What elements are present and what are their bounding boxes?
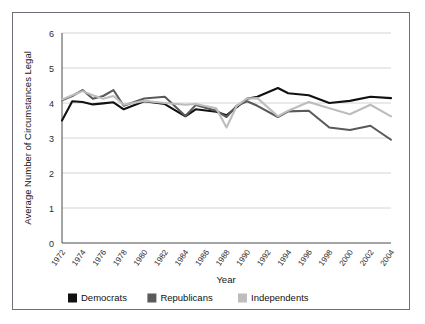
legend-label: Independents bbox=[251, 292, 309, 303]
chart-figure: 0123456 19721974197619781980198219841986… bbox=[0, 0, 425, 324]
x-axis-title: Year bbox=[216, 274, 235, 285]
y-tick-label: 5 bbox=[49, 64, 54, 74]
x-tick-label: 1996 bbox=[296, 248, 314, 268]
x-tick-label: 2004 bbox=[379, 248, 397, 268]
x-tick-label: 1978 bbox=[111, 248, 129, 268]
y-tick-label: 6 bbox=[49, 29, 54, 39]
x-tick-label: 1994 bbox=[276, 248, 294, 268]
y-tick-label: 3 bbox=[49, 134, 54, 144]
x-tick-label: 1986 bbox=[193, 248, 211, 268]
legend-label: Republicans bbox=[160, 292, 213, 303]
y-axis-title: Average Number of Circumstances Legal bbox=[22, 51, 33, 225]
y-axis-tick-labels: 0123456 bbox=[49, 29, 54, 249]
gridlines bbox=[62, 33, 391, 208]
x-axis-tick-labels: 1972197419761978198019821984198619881990… bbox=[50, 248, 397, 268]
line-chart: 0123456 19721974197619781980198219841986… bbox=[0, 0, 425, 324]
y-tick-label: 0 bbox=[49, 239, 54, 249]
x-tick-label: 1982 bbox=[152, 248, 170, 268]
legend-swatch bbox=[147, 294, 156, 303]
y-tick-label: 1 bbox=[49, 204, 54, 214]
chart-legend: DemocratsRepublicansIndependents bbox=[68, 292, 309, 303]
legend-label: Democrats bbox=[81, 292, 127, 303]
data-series bbox=[62, 88, 391, 140]
x-tick-label: 1990 bbox=[235, 248, 253, 268]
x-tick-label: 1974 bbox=[70, 248, 88, 268]
x-tick-label: 1980 bbox=[132, 248, 150, 268]
y-tick-label: 4 bbox=[49, 99, 54, 109]
y-tick-label: 2 bbox=[49, 169, 54, 179]
series-line-independents bbox=[62, 91, 391, 127]
x-tick-label: 1998 bbox=[317, 248, 335, 268]
x-tick-label: 1984 bbox=[173, 248, 191, 268]
x-tick-label: 1988 bbox=[214, 248, 232, 268]
x-tick-label: 2002 bbox=[358, 248, 376, 268]
x-tick-label: 1976 bbox=[91, 248, 109, 268]
legend-swatch bbox=[238, 294, 247, 303]
x-tick-label: 1972 bbox=[50, 248, 68, 268]
x-tick-label: 1992 bbox=[255, 248, 273, 268]
legend-swatch bbox=[68, 294, 77, 303]
x-tick-label: 2000 bbox=[337, 248, 355, 268]
